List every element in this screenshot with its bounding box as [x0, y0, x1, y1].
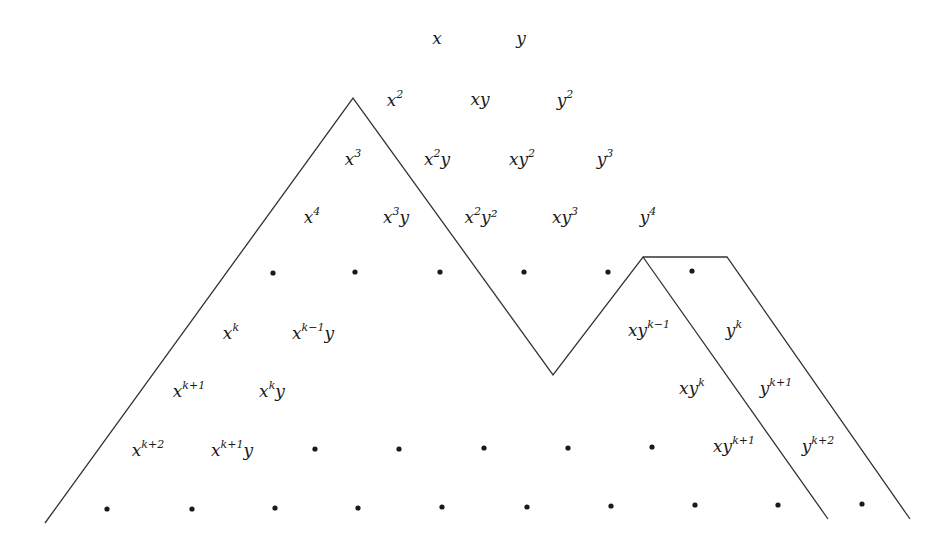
monomial-term: xky [259, 383, 285, 400]
monomial-term: x4 [304, 209, 321, 226]
term-exponent: 3 [392, 205, 399, 218]
monomial-term: yk+1 [760, 380, 793, 397]
ellipsis-dot [524, 504, 529, 509]
term-tail: y [324, 323, 334, 343]
term-exponent: k+2 [811, 434, 834, 447]
term-exponent: k+1 [182, 379, 205, 392]
term-base: x [132, 440, 142, 460]
term-base: x [223, 323, 233, 343]
term-base: x [424, 149, 434, 169]
ellipsis-dot [565, 445, 570, 450]
monomial-term: x2 [387, 92, 404, 109]
term-exponent: 2 [528, 147, 535, 160]
term-base: x [345, 149, 355, 169]
ellipsis-dot [104, 506, 109, 511]
term-base: x [383, 207, 393, 227]
term-exponent: 2 [396, 88, 403, 101]
monomial-term: y3 [597, 151, 614, 168]
term-base: x [432, 28, 442, 48]
ellipsis-dot [312, 446, 317, 451]
term-base: x [292, 323, 302, 343]
monomial-term: x2y [424, 151, 450, 168]
term-base: x [464, 207, 474, 227]
ellipsis-dot [270, 270, 275, 275]
monomial-term: y2 [557, 92, 574, 109]
term-exponent: 3 [354, 147, 361, 160]
monomial-term: x3y [383, 209, 409, 226]
monomial-term: xk+2 [132, 442, 164, 459]
term-exponent: 2 [474, 205, 481, 218]
ellipsis-dot [396, 446, 401, 451]
monomial-term: x [432, 30, 442, 47]
ellipsis-dot [859, 501, 864, 506]
term-base: xy [628, 320, 647, 340]
monomial-term: xy3 [552, 209, 578, 226]
term-base: x [304, 207, 314, 227]
term-exponent: k [735, 318, 742, 331]
term-exponent: 2 [566, 88, 573, 101]
monomial-term: xyk [679, 380, 705, 397]
term-base: x [387, 90, 397, 110]
ellipsis-dot [272, 505, 277, 510]
term-exponent: k+1 [221, 438, 244, 451]
term-base: xy [679, 378, 698, 398]
boundary-lines [0, 0, 947, 545]
term-tail: y [399, 207, 409, 227]
monomial-term: yk [726, 322, 742, 339]
term-exponent: 4 [649, 205, 656, 218]
monomial-term: xy [470, 91, 489, 108]
term-exponent: k [269, 379, 276, 392]
ellipsis-dot [355, 505, 360, 510]
ellipsis-dot [692, 502, 697, 507]
monomial-term: yk+2 [802, 438, 835, 455]
monomial-term: y4 [640, 209, 657, 226]
term-base: y [726, 320, 736, 340]
term-tail: y [275, 381, 285, 401]
term-exponent: k [232, 321, 239, 334]
ellipsis-dot [608, 503, 613, 508]
ellipsis-dot [521, 269, 526, 274]
monomial-term: xk−1y [292, 325, 334, 342]
term-exponent: k [698, 376, 705, 389]
term-base: xy [552, 207, 571, 227]
ellipsis-dot [481, 445, 486, 450]
term-base: y [640, 207, 650, 227]
term-exponent: 3 [571, 205, 578, 218]
ellipsis-dot [605, 269, 610, 274]
term-base: xy [470, 89, 489, 109]
term-base: y [597, 149, 607, 169]
term-tail: y² [481, 207, 497, 227]
term-base: y [516, 28, 526, 48]
term-base: x [173, 381, 183, 401]
monomial-term: xyk+1 [713, 438, 755, 455]
monomial-triangle-diagram: xyx2xyy2x3x2yxy2y3x4x3yx2y²xy3y4xkxk−1yx… [0, 0, 947, 545]
term-exponent: k+1 [732, 434, 755, 447]
term-tail: y [440, 149, 450, 169]
ellipsis-dot [189, 506, 194, 511]
term-exponent: k−1 [302, 321, 325, 334]
term-base: y [760, 378, 770, 398]
monomial-term: xy2 [509, 151, 535, 168]
ellipsis-dot [352, 269, 357, 274]
term-base: xy [509, 149, 528, 169]
term-base: xy [713, 436, 732, 456]
ellipsis-dot [439, 504, 444, 509]
term-base: x [211, 440, 221, 460]
term-exponent: k+1 [769, 376, 792, 389]
term-tail: y [243, 440, 253, 460]
term-exponent: k+2 [141, 438, 164, 451]
ellipsis-dot [775, 502, 780, 507]
ellipsis-dot [649, 444, 654, 449]
monomial-term: xk [223, 325, 239, 342]
term-exponent: k−1 [647, 318, 670, 331]
term-base: y [802, 436, 812, 456]
monomial-term: xk+1y [211, 442, 253, 459]
monomial-term: xyk−1 [628, 322, 670, 339]
ellipsis-dot [437, 269, 442, 274]
monomial-term: y [516, 30, 526, 47]
term-base: x [259, 381, 269, 401]
term-exponent: 2 [433, 147, 440, 160]
term-exponent: 4 [313, 205, 320, 218]
monomial-term: xk+1 [173, 383, 205, 400]
monomial-term: x2y² [464, 209, 497, 226]
